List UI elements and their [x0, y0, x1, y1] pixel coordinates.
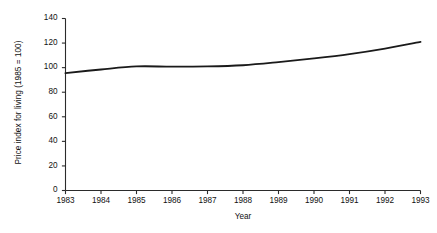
- axis-lines: [66, 19, 421, 191]
- chart-figure: Price index for living (1985 = 100) Year…: [0, 0, 437, 233]
- plot-area: [0, 0, 437, 233]
- data-series-line: [66, 42, 421, 73]
